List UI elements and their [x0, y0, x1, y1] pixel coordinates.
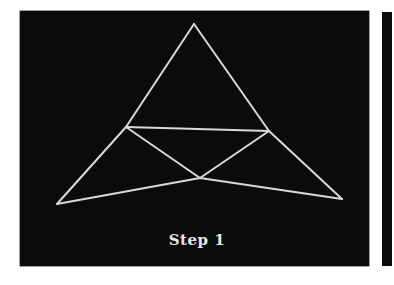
segment-apex-mid_right — [194, 24, 269, 131]
segment-mid_right-inner_bottom — [200, 131, 269, 178]
segment-inner_bottom-bottom_right — [200, 178, 342, 199]
segment-mid_left-mid_right — [126, 127, 269, 131]
segment-apex-mid_left — [126, 24, 194, 127]
diagram-segments — [57, 24, 342, 204]
step-caption: Step 1 — [0, 231, 394, 249]
segment-mid_right-bottom_right — [269, 131, 342, 199]
segment-mid_left-inner_bottom — [126, 127, 200, 178]
segment-bottom_left-inner_bottom — [57, 178, 200, 204]
